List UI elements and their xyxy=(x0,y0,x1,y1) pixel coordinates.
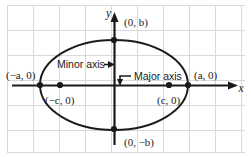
point-left-vertex xyxy=(37,82,43,88)
label-right-vertex: (a, 0) xyxy=(194,69,218,82)
point-top-co-vertex xyxy=(111,37,117,43)
point-bottom-co-vertex xyxy=(111,126,117,132)
label-right-focus: (c, 0) xyxy=(157,94,181,107)
label-left-vertex: (−a, 0) xyxy=(6,69,36,82)
label-left-focus: (−c, 0) xyxy=(45,94,75,107)
point-right-focus xyxy=(166,82,172,88)
y-axis-label: y xyxy=(105,7,112,20)
point-right-vertex xyxy=(185,82,191,88)
label-top-co-vertex: (0, b) xyxy=(124,16,148,29)
point-left-focus xyxy=(57,82,63,88)
ellipse-figure: y x (0, b) (0, −b) (−a, 0) (a, 0) (−c, 0… xyxy=(0,0,251,157)
minor-axis-label: Minor axis xyxy=(57,58,105,70)
x-axis-label: x xyxy=(237,82,244,94)
major-axis-label: Major axis xyxy=(134,70,182,82)
label-bottom-co-vertex: (0, −b) xyxy=(124,136,154,149)
ellipse-diagram: y x (0, b) (0, −b) (−a, 0) (a, 0) (−c, 0… xyxy=(0,0,251,157)
